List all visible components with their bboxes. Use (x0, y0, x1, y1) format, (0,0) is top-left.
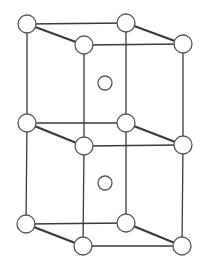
cell-edge-back-bottom-left--back-bottom-right (26, 223, 126, 224)
figure-canvas (0, 0, 202, 268)
corner-atom-front-mid-left (75, 137, 93, 155)
corner-atom-back-top-right (117, 14, 135, 32)
cell-edge-front-mid-left--front-bottom-left (83, 146, 84, 246)
corner-atom-back-mid-left (18, 114, 36, 132)
corner-atom-front-top-left (75, 36, 93, 54)
center-atom-center-bottom-cell (98, 176, 112, 190)
corner-atom-back-bottom-right (117, 214, 135, 232)
corner-atom-back-bottom-left (17, 215, 35, 233)
cell-edge-back-mid-left--back-bottom-left (26, 123, 27, 224)
cell-edge-back-top-left--back-top-right (27, 23, 126, 24)
cell-edge-front-top-left--front-top-right (84, 44, 183, 45)
corner-atom-front-top-right (174, 35, 192, 53)
corner-atom-back-mid-right (117, 114, 135, 132)
center-atom-center-top-cell (98, 76, 112, 90)
corner-atom-front-mid-right (174, 136, 192, 154)
cell-edge-front-mid-left--front-mid-right (84, 145, 183, 146)
crystal-structure-diagram (0, 0, 202, 268)
corner-atom-front-bottom-right (173, 237, 191, 255)
cell-edge-front-mid-right--front-bottom-right (182, 145, 183, 246)
corner-atom-back-top-left (18, 15, 36, 33)
corner-atom-front-bottom-left (74, 237, 92, 255)
